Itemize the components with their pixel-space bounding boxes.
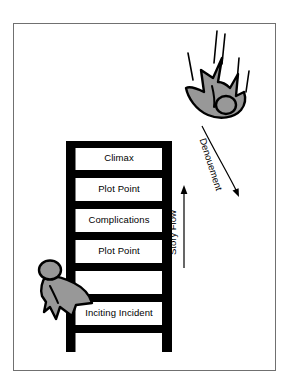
rung-label-plot-point-upper: Plot Point bbox=[76, 184, 162, 194]
diagram-canvas: Climax Plot Point Complications Plot Poi… bbox=[0, 0, 290, 389]
story-flow-arrow bbox=[181, 185, 188, 268]
falling-figure bbox=[186, 31, 249, 118]
rung-label-plot-point-lower: Plot Point bbox=[76, 246, 162, 256]
ladder-rung-bar-2 bbox=[66, 201, 172, 209]
falling-figure-head bbox=[216, 96, 236, 114]
ladder-rung-bar-3 bbox=[66, 232, 172, 240]
diagram-artwork bbox=[0, 0, 290, 389]
ladder-rung-bar-top bbox=[66, 141, 172, 148]
climbing-figure-head bbox=[39, 261, 61, 280]
rung-label-climax: Climax bbox=[76, 153, 162, 163]
story-flow-label: Story Flow bbox=[168, 210, 178, 255]
rung-label-complications: Complications bbox=[76, 215, 162, 225]
ladder-rung-bar-4 bbox=[66, 263, 172, 271]
ladder-rung-bar-bottom bbox=[66, 325, 172, 333]
ladder-rung-bar-1 bbox=[66, 170, 172, 178]
rung-label-inciting-incident: Inciting Incident bbox=[76, 308, 162, 318]
